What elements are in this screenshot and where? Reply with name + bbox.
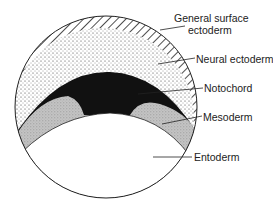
embryo-cross-section-diagram: General surface ectoderm Neural ectoderm… [0,0,273,215]
label-neural-ectoderm: Neural ectoderm [196,53,273,65]
label-general-surface-ectoderm-line2: ectoderm [188,24,232,36]
label-general-surface-ectoderm-line1: General surface [174,12,249,24]
label-mesoderm: Mesoderm [203,111,253,123]
leader-line-general-surface [160,26,185,30]
label-entoderm: Entoderm [194,151,240,163]
label-notochord: Notochord [204,82,253,94]
